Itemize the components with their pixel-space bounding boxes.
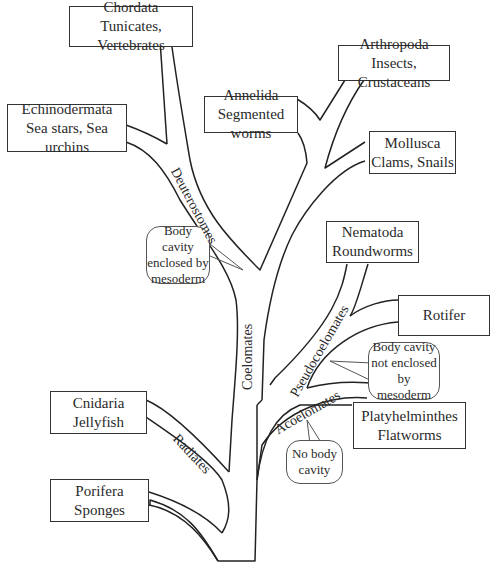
label-coelomates: Coelomates bbox=[240, 324, 256, 390]
callout-pseudocoelom: Body cavity not enclosed by mesoderm bbox=[368, 342, 440, 400]
taxon-name: Chordata bbox=[104, 0, 159, 17]
taxon-examples: Jellyfish bbox=[73, 413, 124, 432]
taxon-box-arthropoda: Arthropoda Insects, Crustaceans bbox=[338, 45, 450, 81]
taxon-name: Rotifer bbox=[423, 306, 466, 325]
taxon-box-annelida: Annelida Segmented worms bbox=[204, 96, 298, 133]
callout-line: not enclosed bbox=[371, 355, 436, 371]
taxon-name: Annelida bbox=[224, 86, 279, 105]
taxon-name: Cnidaria bbox=[73, 394, 125, 413]
taxon-examples: Roundworms bbox=[332, 242, 413, 261]
taxon-box-mollusca: Mollusca Clams, Snails bbox=[369, 131, 456, 174]
callout-line: enclosed by bbox=[147, 255, 209, 271]
taxon-name: Echinodermata bbox=[22, 100, 113, 119]
arthropoda-branch bbox=[325, 80, 365, 168]
taxon-box-chordata: Chordata Tunicates, Vertebrates bbox=[69, 6, 193, 47]
taxon-name: Mollusca bbox=[385, 134, 441, 153]
callout-line: cavity bbox=[299, 462, 331, 478]
taxon-box-rotifer: Rotifer bbox=[398, 295, 490, 336]
taxon-box-nematoda: Nematoda Roundworms bbox=[326, 221, 419, 263]
taxon-examples: Tunicates, Vertebrates bbox=[70, 17, 192, 55]
taxon-examples: Clams, Snails bbox=[371, 153, 454, 172]
taxon-name: Nematoda bbox=[342, 223, 404, 242]
rotifer-branch bbox=[350, 300, 398, 316]
taxon-name: Arthropoda bbox=[359, 35, 428, 54]
taxon-box-cnidaria: Cnidaria Jellyfish bbox=[50, 391, 147, 434]
callout-line: by mesoderm bbox=[369, 371, 439, 403]
taxon-examples: Flatworms bbox=[377, 426, 441, 445]
callout-line: mesoderm bbox=[151, 271, 205, 287]
echinodermata-branch bbox=[126, 125, 167, 144]
taxon-name: Porifera bbox=[75, 482, 123, 501]
taxon-box-porifera: Porifera Sponges bbox=[50, 479, 149, 522]
callout-line: No body bbox=[292, 446, 337, 462]
taxon-box-platyhelminthes: Platyhelminthes Flatworms bbox=[353, 402, 466, 449]
taxon-examples: Segmented worms bbox=[205, 105, 297, 143]
taxon-box-echinodermata: Echinodermata Sea stars, Sea urchins bbox=[7, 104, 127, 152]
taxon-examples: Sea stars, Sea urchins bbox=[8, 119, 126, 157]
callout-line: Body cavity bbox=[372, 339, 435, 355]
taxon-name: Platyhelminthes bbox=[361, 407, 458, 426]
taxon-examples: Sponges bbox=[74, 501, 125, 520]
annelida-branch bbox=[297, 80, 345, 120]
callout-acoelom: No body cavity bbox=[286, 440, 343, 484]
porifera-branch bbox=[149, 492, 222, 533]
taxon-examples: Insects, Crustaceans bbox=[339, 54, 449, 92]
